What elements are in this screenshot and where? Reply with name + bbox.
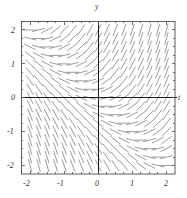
slope-segment: [69, 25, 77, 35]
slope-segment: [33, 53, 45, 59]
slope-segment: [50, 36, 62, 42]
slope-segment: [128, 161, 137, 170]
slope-segment: [86, 24, 92, 35]
y-tick-label-neg2: -2: [7, 162, 14, 170]
slope-segment: [109, 129, 121, 135]
slope-segment: [67, 86, 79, 92]
slope-segment: [144, 163, 156, 169]
slope-segment: [25, 59, 34, 68]
slope-segment: [119, 85, 128, 94]
slope-segment: [111, 144, 120, 153]
slope-segment: [161, 146, 173, 152]
slope-segment: [153, 119, 162, 128]
slope-segment: [50, 69, 62, 75]
x-tick-label-neg2: -2: [23, 180, 30, 188]
slope-segment: [104, 160, 110, 171]
slope-segment: [136, 102, 145, 111]
slope-segment: [42, 76, 51, 85]
slope-segment: [67, 53, 79, 59]
slope-segment: [135, 154, 147, 160]
slope-segment: [51, 85, 60, 94]
slope-segment: [85, 119, 94, 128]
y-axis-label: y: [95, 3, 99, 11]
slope-segment: [152, 137, 164, 143]
slope-segment: [41, 61, 53, 67]
direction-field-figure: y t -2 -1 0 1 2 2 1 0 -1 -2: [0, 0, 187, 198]
slope-segment: [162, 127, 171, 136]
slope-segment: [101, 120, 113, 126]
slope-segment: [60, 25, 69, 34]
slope-segment: [102, 68, 111, 77]
y-tick-label-2: 2: [11, 27, 15, 35]
slope-segment: [24, 44, 36, 50]
slope-segment: [135, 120, 147, 126]
slope-segment: [77, 110, 86, 119]
slope-segment: [41, 27, 53, 33]
slope-segment: [144, 129, 156, 135]
slope-segment: [101, 86, 113, 92]
slope-segment: [120, 160, 128, 170]
slope-segment: [68, 102, 77, 111]
slope-segment: [112, 160, 119, 171]
y-tick-label-0: 0: [11, 94, 15, 102]
slope-segment: [85, 51, 94, 60]
y-tick-label-1: 1: [11, 61, 15, 69]
slope-segment: [34, 68, 43, 77]
slope-segment: [84, 103, 96, 109]
slope-segment: [84, 69, 96, 75]
slope-segment: [127, 146, 139, 152]
x-tick-label-1: 1: [130, 180, 134, 188]
slope-segment: [75, 61, 87, 67]
slope-segment: [118, 137, 130, 143]
slope-segment: [102, 136, 111, 145]
slope-segment: [58, 78, 70, 84]
slope-segment: [78, 25, 85, 36]
y-tick-label-neg1: -1: [7, 128, 14, 136]
x-tick-label-neg1: -1: [57, 180, 64, 188]
slope-segment: [145, 110, 154, 119]
x-tick-label-0: 0: [95, 180, 99, 188]
slope-segment: [77, 42, 86, 51]
x-tick-label-2: 2: [164, 180, 168, 188]
slope-segment: [119, 152, 128, 161]
slope-segment: [68, 34, 77, 43]
slope-segment: [58, 44, 70, 50]
t-axis-label: t: [178, 94, 180, 102]
slope-segment: [118, 103, 130, 109]
slope-segment: [127, 112, 139, 118]
slope-segment: [111, 76, 120, 85]
direction-field-canvas: [0, 0, 187, 198]
